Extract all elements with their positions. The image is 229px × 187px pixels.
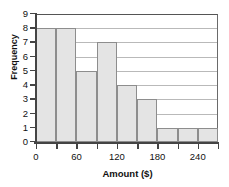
x-tick-label: 60 xyxy=(59,151,93,162)
histogram-bar xyxy=(137,99,157,142)
y-tick-label: 5 xyxy=(0,65,28,76)
histogram-bar xyxy=(117,85,137,142)
y-tick-mark xyxy=(30,41,35,42)
y-tick-mark xyxy=(30,13,35,14)
y-tick-mark xyxy=(30,141,35,142)
x-tick-mark xyxy=(36,143,37,149)
x-tick-mark xyxy=(157,143,158,149)
y-tick-mark xyxy=(30,27,35,28)
histogram-bar xyxy=(178,128,198,142)
y-tick-label: 6 xyxy=(0,51,28,62)
y-tick-label: 0 xyxy=(0,136,28,147)
x-tick-mark xyxy=(56,143,57,149)
y-tick-mark xyxy=(30,127,35,128)
y-tick-mark xyxy=(30,70,35,71)
x-tick-mark xyxy=(137,143,138,149)
histogram-bar xyxy=(36,28,56,142)
plot-area xyxy=(36,14,218,142)
x-tick-mark xyxy=(178,143,179,149)
histogram-bar xyxy=(97,42,117,142)
y-tick-label: 7 xyxy=(0,36,28,47)
y-tick-label: 4 xyxy=(0,79,28,90)
histogram-bar xyxy=(198,128,218,142)
x-axis-line xyxy=(34,142,219,144)
y-tick-mark xyxy=(30,113,35,114)
histogram-bar xyxy=(76,71,96,142)
y-tick-label: 8 xyxy=(0,22,28,33)
histogram-bar xyxy=(157,128,177,142)
y-tick-label: 9 xyxy=(0,8,28,19)
histogram-bar xyxy=(56,28,76,142)
x-tick-mark xyxy=(218,143,219,149)
y-tick-mark xyxy=(30,84,35,85)
y-tick-label: 2 xyxy=(0,108,28,119)
x-tick-label: 180 xyxy=(140,151,174,162)
x-tick-mark xyxy=(198,143,199,149)
x-tick-label: 120 xyxy=(100,151,134,162)
y-tick-label: 1 xyxy=(0,122,28,133)
y-tick-mark xyxy=(30,56,35,57)
y-tick-label: 3 xyxy=(0,93,28,104)
x-tick-mark xyxy=(76,143,77,149)
x-tick-label: 0 xyxy=(19,151,53,162)
histogram-chart: Frequency 0123456789 060120180240 Amount… xyxy=(0,0,229,187)
y-tick-mark xyxy=(30,98,35,99)
x-tick-label: 240 xyxy=(181,151,215,162)
y-axis-line xyxy=(35,13,37,144)
x-tick-mark xyxy=(97,143,98,149)
x-axis-title: Amount ($) xyxy=(36,168,219,179)
x-tick-mark xyxy=(117,143,118,149)
